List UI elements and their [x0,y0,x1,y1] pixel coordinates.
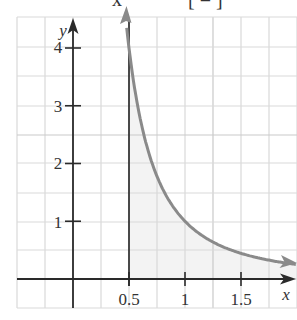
heading-fragment-right: [ = ] [188,0,223,10]
x-axis-label: x [281,285,290,304]
y-tick-label-1: 1 [54,213,63,232]
graph-1-over-x-squared: x [ = ] 0.5 1 1.5 1 2 3 4 y x [0,0,297,320]
cropped-heading-fragment: x [ = ] [112,0,223,10]
x-tick-label-1.5: 1.5 [230,290,251,309]
x-tick-label-1: 1 [181,290,190,309]
x-tick-label-0.5: 0.5 [118,290,139,309]
heading-fragment-left: x [112,0,122,10]
y-tick-label-2: 2 [54,154,63,173]
y-axis-label: y [57,21,67,40]
y-tick-label-4: 4 [54,38,63,57]
y-tick-label-3: 3 [54,97,63,116]
